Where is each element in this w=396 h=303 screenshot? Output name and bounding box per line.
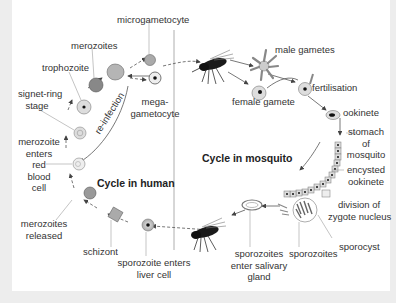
title-cycle-in-human: Cycle in human bbox=[97, 177, 175, 189]
label-fertilisation: fertilisation bbox=[312, 82, 357, 94]
diagram-canvas: Cycle in human Cycle in mosquito microga… bbox=[12, 0, 390, 291]
label-sporozoites-enter-salivary-gland: sporozoites enter salivary gland bbox=[228, 248, 290, 283]
label-sporozoite-enters-liver: sporozoite enters liver cell bbox=[115, 257, 193, 280]
label-sporozoites: sporozoites bbox=[289, 248, 338, 260]
label-encysted-ookinete: encysted ookinete bbox=[342, 164, 390, 187]
merozoites-cell bbox=[89, 78, 103, 92]
microgametocyte-cell bbox=[145, 55, 156, 66]
label-female-gamete: female gamete bbox=[232, 96, 295, 108]
label-schizont: schizont bbox=[83, 246, 118, 258]
label-male-gametes: male gametes bbox=[275, 44, 335, 56]
label-trophozoite: trophozoite bbox=[42, 62, 89, 74]
label-merozoites: merozoites bbox=[71, 40, 117, 52]
label-merozoite-enters-rbc: merozoite enters red blood cell bbox=[18, 136, 60, 194]
mosquito-bottom-icon bbox=[191, 218, 226, 252]
signet-ring-cell bbox=[74, 127, 86, 139]
label-stomach-of-mosquito: stomach of mosquito bbox=[342, 126, 390, 161]
label-megagametocyte: mega- gametocyte bbox=[130, 96, 180, 119]
title-cycle-in-mosquito: Cycle in mosquito bbox=[202, 152, 292, 164]
schizont-cell bbox=[108, 207, 123, 222]
label-merozoites-released: merozoites released bbox=[20, 218, 68, 241]
merozoite-cluster bbox=[107, 64, 124, 80]
label-sporocyst: sporocyst bbox=[339, 241, 380, 253]
salivary-gland-icon bbox=[242, 200, 262, 210]
label-signet-ring-stage: signet-ring stage bbox=[18, 88, 56, 111]
stomach-wall-icon bbox=[284, 142, 341, 197]
label-division-of-zygote: division of zygote nucleus bbox=[328, 199, 390, 222]
red-blood-cell bbox=[73, 158, 85, 170]
label-microgametocyte: microgametocyte bbox=[117, 14, 189, 26]
label-ookinete: ookinete bbox=[343, 107, 379, 119]
released-merozoites-cell bbox=[84, 187, 96, 199]
zygote-division-cell bbox=[322, 190, 330, 197]
mosquito-top-icon bbox=[192, 50, 234, 84]
